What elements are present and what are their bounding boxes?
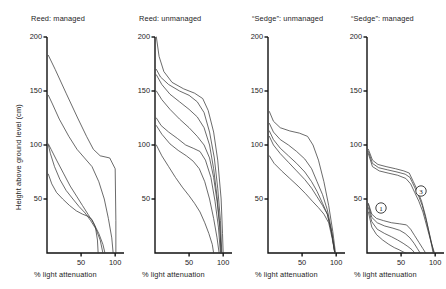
curve-profile-5-panel-3 (269, 156, 334, 253)
y-tick-label-100-panel-4: 100 (345, 140, 362, 149)
y-tick-label-100-panel-2: 100 (133, 140, 150, 149)
y-tick-label-200-panel-2: 200 (133, 32, 150, 41)
y-tick-label-100-panel-1: 100 (25, 140, 42, 149)
curve-profile-3-panel-1 (48, 144, 105, 253)
y-tick-label-200-panel-4: 200 (345, 32, 362, 41)
y-tick-label-200-panel-1: 200 (25, 32, 42, 41)
y-tick-label-50-panel-1: 50 (25, 194, 42, 203)
panel-title-3: “Sedge”: unmanaged (252, 14, 323, 23)
annotation-label-1: 1 (379, 205, 383, 213)
curve-profile-3-panel-2 (156, 75, 221, 253)
figure-container: Height above ground level (cm) 13 Reed: … (0, 0, 446, 289)
panel-title-1: Reed: managed (31, 14, 85, 23)
panel-title-4: “Sedge”: managed (351, 14, 414, 23)
curve-profile-5-panel-1 (48, 174, 98, 253)
curve-profile-3-panel-3 (269, 131, 334, 253)
x-tick-label-50-panel-3: 50 (292, 258, 312, 267)
x-tick-label-100-panel-4: 100 (425, 258, 445, 267)
curve-profile-7-panel-2 (156, 145, 213, 253)
y-tick-label-150-panel-2: 150 (133, 86, 150, 95)
panel-axes-1 (47, 37, 124, 253)
y-tick-label-50-panel-2: 50 (133, 194, 150, 203)
curve-profile-4-panel-1 (48, 145, 103, 253)
plot-svg: 13 (0, 0, 446, 289)
curve-profile-upper-1-panel-4 (368, 149, 433, 253)
y-tick-label-50-panel-3: 50 (246, 194, 263, 203)
y-tick-label-150-panel-4: 150 (345, 86, 362, 95)
x-tick-label-100-panel-3: 100 (326, 258, 346, 267)
panel-title-2: Reed: unmanaged (139, 14, 201, 23)
curve-profile-lower-2-panel-4 (368, 204, 420, 253)
curve-profile-4-panel-3 (269, 136, 334, 253)
x-axis-label-panel-4: % light attenuation (354, 270, 417, 279)
x-axis-label-panel-3: % light attenuation (255, 270, 318, 279)
curve-profile-lower-4-panel-4 (368, 212, 406, 253)
x-tick-label-50-panel-2: 50 (179, 258, 199, 267)
annotation-1: 1 (376, 203, 386, 213)
annotation-label-3: 3 (419, 188, 423, 196)
curve-profile-1-panel-1 (48, 55, 116, 253)
panel-axes-4 (367, 37, 444, 253)
curve-profile-1-panel-2 (156, 37, 223, 253)
x-axis-label-panel-2: % light attenuation (142, 270, 205, 279)
x-tick-label-100-panel-1: 100 (105, 258, 125, 267)
y-tick-label-150-panel-1: 150 (25, 86, 42, 95)
annotation-3: 3 (416, 186, 426, 196)
curve-profile-1-panel-3 (269, 112, 335, 253)
curve-profile-4-panel-2 (156, 91, 221, 253)
curve-profile-upper-2-panel-4 (368, 151, 433, 253)
x-tick-label-50-panel-1: 50 (71, 258, 91, 267)
y-tick-label-150-panel-3: 150 (246, 86, 263, 95)
x-tick-label-50-panel-4: 50 (391, 258, 411, 267)
y-tick-label-100-panel-3: 100 (246, 140, 263, 149)
x-axis-label-panel-1: % light attenuation (34, 270, 97, 279)
y-tick-label-200-panel-3: 200 (246, 32, 263, 41)
y-tick-label-50-panel-4: 50 (345, 194, 362, 203)
panel-axes-3 (268, 37, 345, 253)
x-tick-label-100-panel-2: 100 (213, 258, 233, 267)
